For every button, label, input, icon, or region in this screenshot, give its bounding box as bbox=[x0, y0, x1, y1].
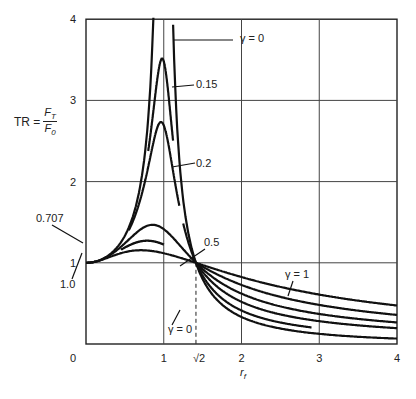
annotations: γ = 00.150.20.50.7071.0γ = 1γ = 0 bbox=[36, 32, 309, 335]
x-tick-label: 3 bbox=[316, 352, 322, 364]
y-tick-label: 3 bbox=[70, 94, 76, 106]
annotation-label: 1.0 bbox=[60, 278, 75, 290]
annotation-label: 0.5 bbox=[204, 236, 219, 248]
transmissibility-chart: 01√22341234 γ = 00.150.20.50.7071.0γ = 1… bbox=[0, 0, 416, 399]
x-tick-label: 4 bbox=[394, 352, 400, 364]
y-tick-label: 2 bbox=[70, 176, 76, 188]
annotation-label: 0.2 bbox=[196, 157, 211, 169]
annotation-label: γ = 1 bbox=[285, 268, 309, 280]
x-tick-label: 0 bbox=[70, 352, 76, 364]
grid bbox=[86, 19, 397, 344]
x-axis-label: rf bbox=[240, 366, 247, 381]
annotation-label: γ = 0 bbox=[240, 32, 264, 44]
x-tick-label: √2 bbox=[193, 352, 205, 364]
annotation-label: γ = 0 bbox=[168, 323, 192, 335]
y-tick-label: 4 bbox=[70, 13, 76, 25]
x-tick-label: 2 bbox=[239, 352, 245, 364]
x-tick-label: 1 bbox=[161, 352, 167, 364]
axis-ticks: 01√22341234 bbox=[70, 13, 400, 364]
annotation-label: 0.15 bbox=[196, 78, 217, 90]
annotation-label: 0.707 bbox=[36, 212, 64, 224]
annotation-leader bbox=[52, 225, 83, 243]
annotation-leader bbox=[172, 163, 195, 167]
y-tick-label: 1 bbox=[70, 257, 76, 269]
